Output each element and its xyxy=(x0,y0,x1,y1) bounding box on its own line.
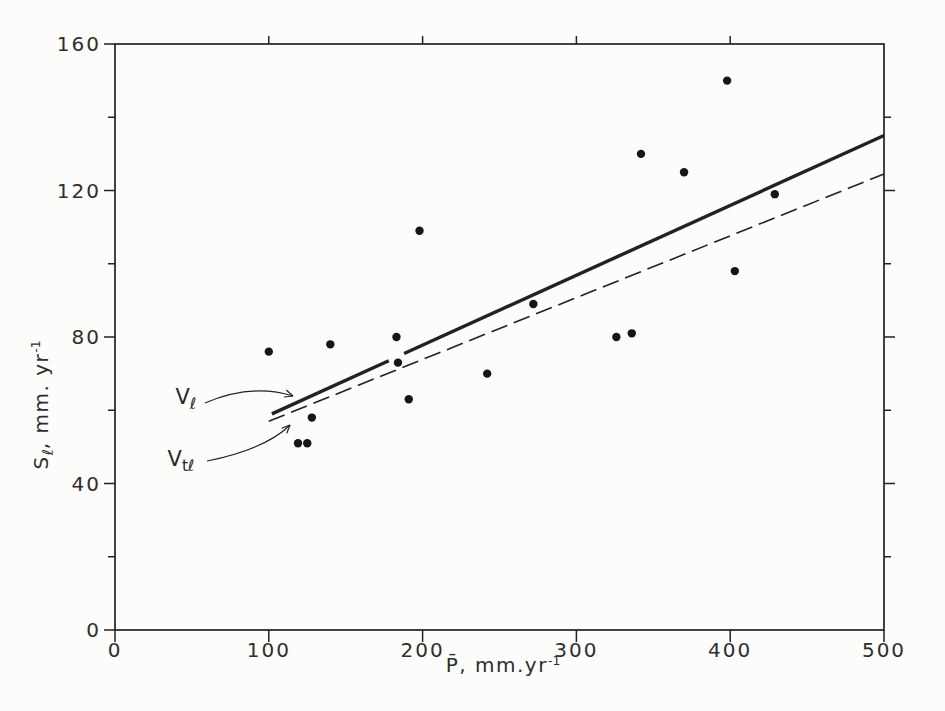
dashed-line-label-vtl: Vtℓ xyxy=(168,447,195,475)
regression-line-dashed xyxy=(269,174,884,421)
annotation-arrow xyxy=(207,425,290,461)
data-point xyxy=(637,150,645,158)
x-axis-title: P̄, mm.yr-1 xyxy=(446,653,561,678)
x-axis-title-sup: -1 xyxy=(548,653,560,668)
data-point xyxy=(405,395,413,403)
data-point xyxy=(680,168,688,176)
y-axis-tick-label: 160 xyxy=(57,32,101,56)
y-axis-title: Sℓ, mm. yr-1 xyxy=(28,340,56,469)
x-axis-title-units: , mm.yr xyxy=(459,653,548,677)
data-point xyxy=(392,333,400,341)
x-axis-tick-label: 500 xyxy=(862,638,906,662)
dashed-line-label-sub: tℓ xyxy=(182,457,195,475)
data-point xyxy=(771,190,779,198)
x-axis-title-main: P̄ xyxy=(446,653,460,677)
data-point xyxy=(308,413,316,421)
data-point xyxy=(612,333,620,341)
regression-line-solid xyxy=(404,136,884,354)
annotation-arrow xyxy=(205,391,293,403)
solid-line-label-vl: Vℓ xyxy=(176,385,197,413)
y-axis-title-sub: ℓ xyxy=(39,449,56,455)
data-point xyxy=(303,439,311,447)
y-axis-title-units: , mm. yr xyxy=(29,353,53,449)
x-axis-tick-label: 300 xyxy=(554,638,598,662)
x-axis-tick-label: 0 xyxy=(108,638,123,662)
regression-line-solid xyxy=(272,361,389,414)
y-axis-tick-label: 80 xyxy=(72,325,101,349)
solid-line-label-main: V xyxy=(176,385,190,409)
data-point xyxy=(294,439,302,447)
data-point xyxy=(529,300,537,308)
annotation-arrowhead xyxy=(284,396,293,397)
data-point xyxy=(483,369,491,377)
plot-frame xyxy=(115,44,884,630)
x-axis-tick-label: 400 xyxy=(708,638,752,662)
dashed-line-label-main: V xyxy=(168,447,182,471)
x-axis-tick-label: 200 xyxy=(401,638,445,662)
solid-line-label-sub: ℓ xyxy=(190,395,196,413)
data-point xyxy=(731,267,739,275)
y-axis-tick-label: 0 xyxy=(86,618,101,642)
data-point xyxy=(265,347,273,355)
data-point xyxy=(394,358,402,366)
data-point xyxy=(628,329,636,337)
scatter-plot-figure: 040801201600100200300400500 Sℓ, mm. yr-1… xyxy=(0,0,945,711)
y-axis-title-main: S xyxy=(29,455,53,469)
y-axis-title-sup: -1 xyxy=(28,340,43,352)
plot-canvas: 040801201600100200300400500 xyxy=(0,0,945,711)
data-point xyxy=(415,227,423,235)
x-axis-tick-label: 100 xyxy=(247,638,291,662)
y-axis-tick-label: 40 xyxy=(72,472,101,496)
y-axis-tick-label: 120 xyxy=(57,179,101,203)
data-point xyxy=(326,340,334,348)
data-point xyxy=(723,76,731,84)
